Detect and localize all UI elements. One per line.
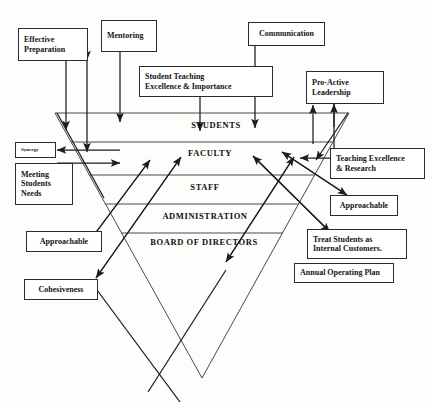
box-cohesiveness-line-1: Cohesiveness [39,285,84,294]
box-teaching-excellence-research: Teaching Excellence & Research [330,148,425,179]
box-effective-preparation-line-1: Effective [24,35,54,44]
box-treat-students-internal-customers: Treat Students as Internal Customers. [307,229,407,259]
box-approachable-right: Approachable [330,195,398,216]
box-approachable-right-line-1: Approachable [340,201,388,210]
box-effective-preparation-line-2: Preparation [24,45,65,54]
box-teaching-excellence-research-line-2: & Research [336,164,376,173]
box-meeting-students-needs: Meeting Students Needs [15,163,73,205]
box-synergy-line-1: Synergy [21,147,39,153]
box-teaching-excellence-research-line-1: Teaching Excellence [336,154,405,163]
arrow-lower-left-long-slant [97,290,180,402]
box-approachable-left-line-1: Approachable [40,237,88,246]
box-meeting-students-needs-line-2: Students [21,179,51,188]
box-synergy: Synergy [15,142,56,158]
box-student-teaching-excellence-line-1: Student Teaching [145,72,204,81]
box-effective-preparation: Effective Preparation [18,28,88,61]
arrow-lower-right-long-slant [148,270,226,392]
diagram-canvas: STUDENTS FACULTY STAFF ADMINISTRATION BO… [0,0,432,402]
box-communication: Communication [248,22,325,46]
box-pro-active-leadership-line-1: Pro-Active [312,78,349,87]
box-annual-operating-plan-line-1: Annual Operating Plan [300,268,380,277]
box-treat-students-line-2: Internal Customers. [313,244,382,253]
box-meeting-students-needs-line-3: Needs [21,189,41,198]
box-communication-line-1: Communication [259,29,314,38]
box-pro-active-leadership-line-2: Leadership [312,88,351,97]
box-cohesiveness: Cohesiveness [24,279,98,300]
box-mentoring: Mentoring [101,20,157,52]
pyramid-tier-students: STUDENTS [0,120,432,130]
connector-arrows [57,46,338,163]
box-mentoring-line-1: Mentoring [107,31,143,40]
box-approachable-left: Approachable [26,231,102,252]
box-meeting-students-needs-line-1: Meeting [21,170,49,179]
box-student-teaching-excellence-line-2: Excellence & Importance [145,82,232,91]
box-treat-students-line-1: Treat Students as [313,235,372,244]
box-student-teaching-excellence: Student Teaching Excellence & Importance [139,66,273,97]
box-annual-operating-plan: Annual Operating Plan [294,263,394,283]
box-pro-active-leadership: Pro-Active Leadership [306,71,384,104]
